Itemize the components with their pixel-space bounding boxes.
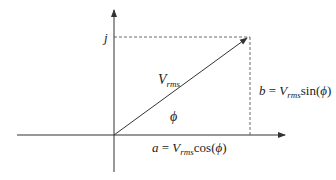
angle-label: ϕ bbox=[170, 110, 177, 124]
imaginary-axis-label: j bbox=[104, 31, 108, 44]
imag-component-label: b = Vrmssin(ϕ) bbox=[259, 84, 331, 100]
vector-label: Vrms bbox=[158, 73, 180, 89]
real-component-label: a = Vrmscos(ϕ) bbox=[152, 141, 227, 157]
phasor-diagram: j Vrms ϕ a = Vrmscos(ϕ) b = Vrmssin(ϕ) bbox=[0, 0, 336, 180]
phasor-vector bbox=[114, 38, 247, 135]
